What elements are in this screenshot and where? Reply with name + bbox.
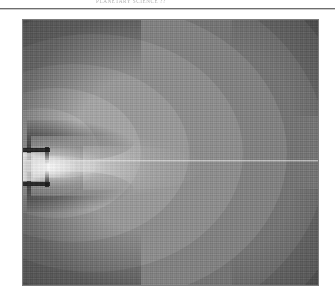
corner-shade-top-right bbox=[232, 20, 318, 116]
corner-shade-bottom-right bbox=[232, 189, 318, 285]
header-rule-shadow bbox=[0, 9, 335, 10]
document-page: PLANETARY SCIENCE ?? bbox=[0, 0, 335, 296]
axis-of-symmetry-shadow bbox=[23, 161, 318, 162]
nozzle-throat bbox=[23, 153, 47, 181]
nozzle-lip bbox=[45, 147, 49, 187]
running-head: PLANETARY SCIENCE ?? bbox=[0, 0, 335, 8]
running-head-text: PLANETARY SCIENCE ?? bbox=[96, 0, 166, 4]
figure-contour-plot bbox=[23, 20, 318, 285]
